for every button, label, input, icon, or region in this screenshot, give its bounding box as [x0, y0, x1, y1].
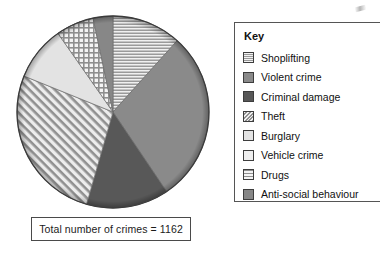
pie-chart-svg: [16, 15, 210, 209]
solid-dark-gray-swatch-icon: [243, 91, 254, 102]
diagonal-stripe-swatch-icon: [243, 111, 254, 122]
legend-item-label: Violent crime: [261, 71, 322, 83]
horizontal-stripe-swatch-icon: [243, 52, 254, 63]
scan-artifact-mark: [355, 5, 367, 13]
legend-item-shoplifting: Shoplifting: [243, 48, 380, 68]
solid-light-swatch-icon: [243, 150, 254, 161]
legend-key-box: Key Shoplifting Violent crime Criminal d…: [234, 22, 380, 202]
legend-item-violent-crime: Violent crime: [243, 68, 380, 88]
legend-item-label: Drugs: [261, 169, 289, 181]
legend-item-label: Shoplifting: [261, 52, 310, 64]
legend-item-label: Vehicle crime: [261, 149, 323, 161]
crosshatch-swatch-icon: [243, 169, 254, 180]
solid-medium-gray-swatch-icon: [243, 189, 254, 200]
legend-item-anti-social-behaviour: Anti-social behaviour: [243, 185, 380, 205]
legend-item-label: Criminal damage: [261, 91, 340, 103]
legend-item-label: Burglary: [261, 130, 300, 142]
legend-item-burglary: Burglary: [243, 126, 380, 146]
total-crimes-box: Total number of crimes = 1162: [31, 217, 191, 241]
pie-chart: [16, 15, 210, 209]
legend-item-criminal-damage: Criminal damage: [243, 87, 380, 107]
total-crimes-label: Total number of crimes = 1162: [39, 223, 183, 235]
solid-medium-gray-swatch-icon: [243, 72, 254, 83]
solid-very-light-swatch-icon: [243, 130, 254, 141]
legend-item-drugs: Drugs: [243, 165, 380, 185]
legend-title: Key: [244, 30, 380, 43]
legend-item-vehicle-crime: Vehicle crime: [243, 146, 380, 166]
legend-item-label: Theft: [261, 110, 285, 122]
legend-item-theft: Theft: [243, 107, 380, 127]
legend-item-label: Anti-social behaviour: [261, 188, 358, 200]
